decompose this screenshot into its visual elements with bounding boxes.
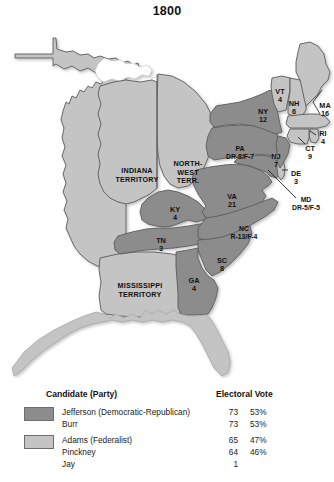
territory-label-line: TERRITORY: [116, 175, 159, 184]
page-title: 1800: [0, 4, 334, 18]
lake-superior-shape: [95, 58, 152, 82]
state-electoral-votes: 3: [294, 177, 298, 186]
legend-row-votes: 65: [216, 435, 238, 445]
legend-row-name: Jay: [62, 459, 75, 469]
state-electoral-votes: 16: [321, 109, 329, 118]
state-label-ct: CT9: [305, 144, 315, 161]
state-electoral-votes: 7: [274, 160, 278, 169]
state-label-md: MDDR-5/F-5: [292, 196, 320, 211]
state-electoral-votes: 6: [292, 107, 296, 116]
legend-row-percent: 53%: [250, 407, 267, 417]
legend-row-percent: 53%: [250, 419, 267, 429]
state-electoral-votes: 4: [321, 137, 326, 146]
state-abbr: PA: [236, 145, 245, 152]
territory-label-mississippi-territory: MISSISSIPPITERRITORY: [118, 281, 163, 299]
state-electoral-votes: DR-8/F-7: [226, 153, 254, 160]
legend-row-name: Pinckney: [62, 447, 96, 457]
territory-shape-indiana: [98, 80, 157, 204]
map-legend: Candidate (Party) Electoral Vote Jeffers…: [0, 380, 334, 482]
territory-label-northwest-territory: NORTH-WESTTERR.: [173, 159, 203, 185]
legend-row-percent: 47%: [250, 435, 267, 445]
map-container: VT4NH6MA16NY12RI4CT9PADR-8/F-7NJ7DE3MDDR…: [0, 18, 334, 378]
legend-header-electoral-vote: Electoral Vote: [216, 389, 273, 399]
state-electoral-votes: 3: [159, 244, 163, 253]
legend-row-name: Burr: [62, 419, 78, 429]
territory-label-line: TERRITORY: [119, 290, 162, 299]
legend-row-votes: 73: [216, 407, 238, 417]
state-electoral-votes: 21: [228, 200, 236, 209]
state-label-ri: RI4: [319, 129, 326, 146]
state-abbr: MD: [301, 196, 312, 203]
legend-row-votes: 1: [216, 459, 238, 469]
state-electoral-votes: DR-5/F-5: [292, 204, 320, 211]
coastline-shape-gulf-florida: [12, 310, 230, 376]
state-label-tn: TN3: [156, 236, 166, 253]
state-label-de: DE3: [291, 169, 301, 186]
state-label-ma: MA16: [319, 101, 331, 118]
legend-row-percent: 46%: [250, 447, 267, 457]
state-shape-connecticut: [287, 129, 309, 144]
state-abbr: NC: [239, 225, 249, 232]
legend-row-name: Jefferson (Democratic-Republican): [62, 407, 190, 417]
legend-swatch-federalist: [24, 435, 54, 449]
territory-label-indiana-territory: INDIANATERRITORY: [116, 166, 159, 184]
legend-swatch-democratic-republican: [24, 407, 54, 421]
territory-label-line: TERR.: [177, 176, 200, 185]
legend-row-votes: 73: [216, 419, 238, 429]
us-election-map-1800: VT4NH6MA16NY12RI4CT9PADR-8/F-7NJ7DE3MDDR…: [0, 18, 334, 378]
state-electoral-votes: 9: [308, 152, 312, 161]
state-electoral-votes: 8: [220, 264, 224, 273]
state-label-va: VA21: [227, 192, 237, 209]
state-label-ny: NY12: [258, 107, 268, 124]
electoral-map-page: 1800: [0, 0, 334, 482]
legend-header-candidate: Candidate (Party): [46, 389, 117, 399]
legend-row-votes: 64: [216, 447, 238, 457]
legend-row-name: Adams (Federalist): [62, 435, 132, 445]
state-electoral-votes: 12: [259, 115, 267, 124]
state-electoral-votes: R-13/F-4: [231, 233, 258, 240]
